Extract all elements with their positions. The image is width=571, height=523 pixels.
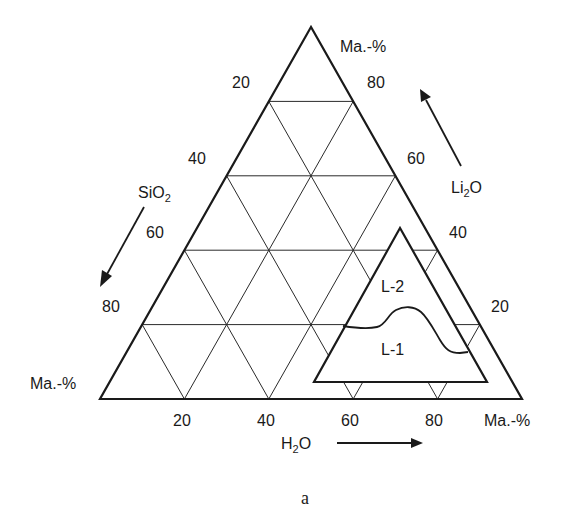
bottom-tick-40: 40 xyxy=(257,412,275,429)
bottom-axis-arrow xyxy=(337,438,423,448)
right-axis-title: Li2O xyxy=(451,179,482,199)
left-tick-20: 20 xyxy=(232,74,250,91)
left-tick-80: 80 xyxy=(102,298,120,315)
left-axis-arrow xyxy=(100,207,144,287)
right-tick-60: 60 xyxy=(407,150,425,167)
corner-label-top: Ma.-% xyxy=(340,38,386,55)
left-tick-40: 40 xyxy=(188,150,206,167)
corner-label-bottom-right: Ma.-% xyxy=(484,412,530,429)
bottom-tick-80: 80 xyxy=(425,412,443,429)
bottom-tick-20: 20 xyxy=(173,412,191,429)
corner-label-bottom-left: Ma.-% xyxy=(30,375,76,392)
right-axis-arrow xyxy=(420,89,461,166)
figure-caption: a xyxy=(301,488,309,508)
right-tick-20: 20 xyxy=(491,298,509,315)
region-label-l2: L-2 xyxy=(381,278,404,295)
right-tick-40: 40 xyxy=(449,224,467,241)
right-tick-80: 80 xyxy=(367,74,385,91)
left-tick-60: 60 xyxy=(146,224,164,241)
bottom-tick-60: 60 xyxy=(341,412,359,429)
region-label-l1: L-1 xyxy=(381,341,404,358)
bottom-axis-title: H2O xyxy=(281,435,311,455)
ternary-diagram: L-2 L-1 Ma.-% Ma.-% Ma.-% 20 40 60 80 80… xyxy=(0,0,571,523)
inset-triangle xyxy=(314,228,487,382)
left-axis-title: SiO2 xyxy=(138,184,171,204)
